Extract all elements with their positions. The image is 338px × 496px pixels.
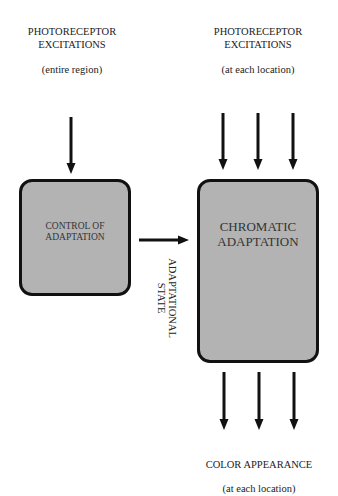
control-of-adaptation-box: CONTROL OF ADAPTATION — [19, 179, 131, 296]
chromatic-adaptation-box: CHROMATIC ADAPTATION — [197, 179, 319, 363]
output-subtitle: (at each location) — [203, 482, 315, 495]
chromatic-box-line2: ADAPTATION — [200, 234, 316, 249]
right-input-arrow-1 — [219, 113, 228, 170]
chromatic-box-line1: CHROMATIC — [200, 219, 316, 234]
left-input-arrow — [67, 117, 76, 174]
output-title: COLOR APPEARANCE — [203, 458, 315, 471]
control-box-line1: CONTROL OF — [22, 221, 128, 232]
output-arrow-3 — [290, 372, 299, 430]
control-box-label: CONTROL OF ADAPTATION — [22, 221, 128, 243]
adaptational-state-label: ADAPTATIONAL STATE — [156, 256, 178, 340]
control-box-line2: ADAPTATION — [22, 232, 128, 243]
adaptational-state-arrow — [139, 236, 189, 245]
output-label: COLOR APPEARANCE (at each location) — [203, 458, 315, 495]
adaptational-state-line1: ADAPTATIONAL — [167, 256, 178, 340]
chromatic-box-label: CHROMATIC ADAPTATION — [200, 219, 316, 249]
right-input-arrow-2 — [254, 113, 263, 170]
output-arrow-1 — [220, 372, 229, 430]
adaptational-state-line2: STATE — [156, 256, 167, 340]
right-input-arrow-3 — [289, 113, 298, 170]
output-arrow-2 — [255, 372, 264, 430]
